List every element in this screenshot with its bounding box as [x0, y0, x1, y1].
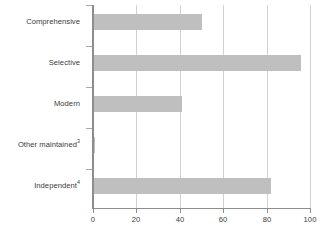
x-axis-tick-80 [267, 209, 268, 213]
bar-modern[interactable] [93, 96, 182, 112]
y-axis-tick [86, 128, 92, 129]
y-axis-tick [86, 46, 92, 47]
category-label-independent: Independent4 [0, 181, 80, 190]
y-axis-line [92, 5, 94, 209]
footnote-marker: 3 [77, 138, 80, 144]
category-label-modern: Modern [0, 99, 80, 108]
category-axis-labels: Comprehensive Selective Modern Other mai… [0, 5, 86, 208]
x-axis-line [92, 208, 311, 209]
category-label-text: Independent [34, 181, 77, 190]
bar-comprehensive[interactable] [93, 14, 202, 30]
y-axis-tick [86, 87, 92, 88]
bar-independent[interactable] [93, 178, 271, 194]
x-axis-label-0: 0 [91, 215, 95, 224]
x-axis-tick-100 [310, 209, 311, 213]
x-axis-tick-40 [180, 209, 181, 213]
x-axis-tick-60 [223, 209, 224, 213]
x-axis-label-40: 40 [176, 215, 185, 224]
plot-area [93, 5, 310, 208]
category-label-text: Comprehensive [26, 17, 80, 26]
y-axis-tick [86, 169, 92, 170]
x-axis-tick-0 [93, 209, 94, 213]
footnote-marker: 4 [77, 179, 80, 185]
x-axis-label-100: 100 [304, 215, 317, 224]
category-label-other-maintained: Other maintained3 [0, 140, 80, 149]
category-label-selective: Selective [0, 58, 80, 67]
category-label-text: Other maintained [18, 140, 77, 149]
category-label-text: Modern [54, 99, 80, 108]
y-axis-tick [86, 5, 92, 6]
x-axis-label-80: 80 [263, 215, 272, 224]
x-axis-label-60: 60 [219, 215, 228, 224]
bar-chart: Comprehensive Selective Modern Other mai… [0, 0, 324, 234]
bar-selective[interactable] [93, 55, 301, 71]
x-axis-tick-20 [136, 209, 137, 213]
category-label-comprehensive: Comprehensive [0, 17, 80, 26]
category-label-text: Selective [49, 58, 80, 67]
gridline-100 [310, 5, 311, 208]
x-axis-label-20: 20 [132, 215, 141, 224]
